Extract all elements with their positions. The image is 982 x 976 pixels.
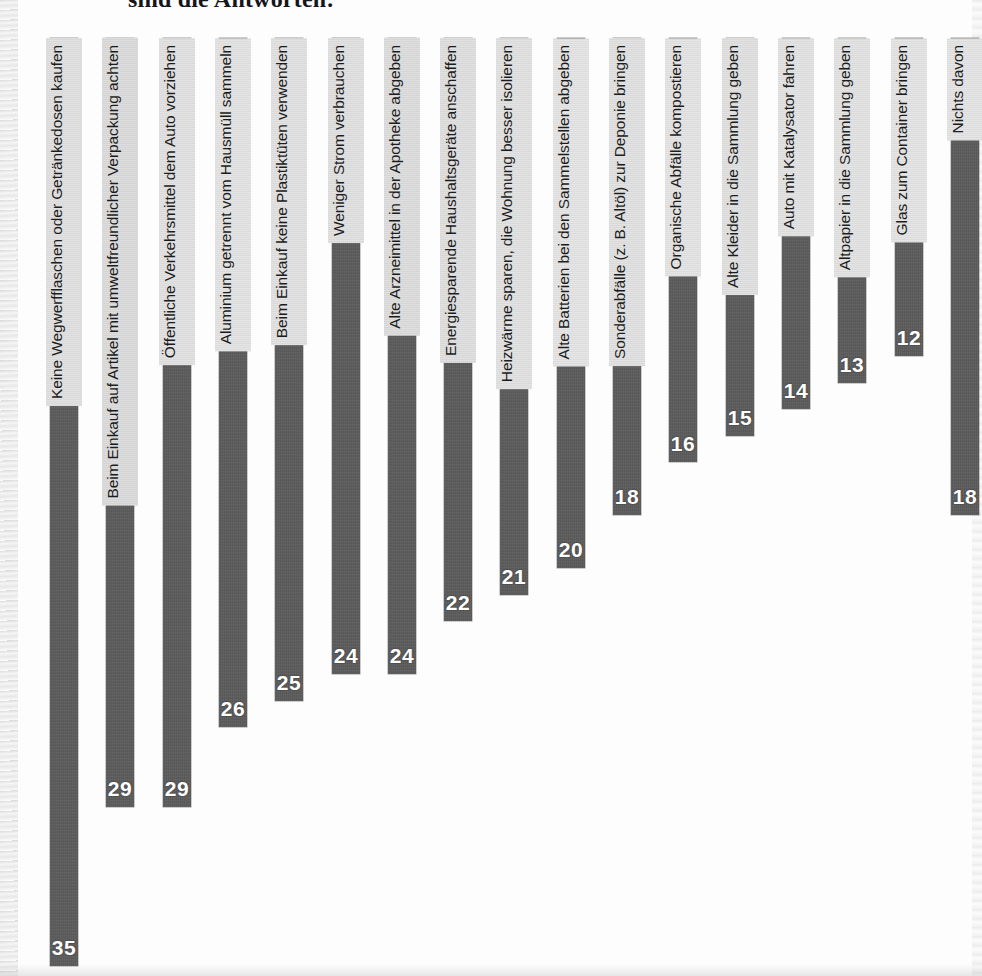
bar-group: 18Nichts davon: [951, 38, 979, 515]
bar-value-label: 16: [669, 432, 697, 456]
bar-category-label: Energiesparende Haushaltsgeräte anschaff…: [440, 38, 476, 363]
bar-value-label: 18: [613, 485, 641, 509]
bar-category-label: Beim Einkauf auf Artikel mit umweltfreun…: [102, 38, 138, 506]
bar-value-label: 35: [50, 936, 78, 960]
bar-value-label: 26: [219, 697, 247, 721]
bar-value-label: 29: [106, 777, 134, 801]
bar-category-label: Heizwärme sparen, die Wohnung besser iso…: [496, 38, 532, 389]
bar-group: 25Beim Einkauf keine Plastiktüten verwen…: [275, 38, 303, 701]
bar-category-label: Alte Kleider in die Sammlung geben: [722, 38, 758, 295]
bar-group: 24Alte Arzneimittel in der Apotheke abge…: [388, 38, 416, 674]
bar-group: 15Alte Kleider in die Sammlung geben: [726, 38, 754, 436]
bar-group: 13Altpapier in die Sammlung geben: [838, 38, 866, 383]
bar-group: 16Organische Abfälle kompostieren: [669, 38, 697, 462]
bar-category-label: Sonderabfälle (z. B. Altöl) zur Deponie …: [609, 38, 645, 366]
bar-group: 35Keine Wegwerfflaschen oder Getränkedos…: [50, 38, 78, 966]
bar-category-label: Keine Wegwerfflaschen oder Getränkedosen…: [46, 38, 82, 406]
bar-value-label: 18: [951, 485, 979, 509]
bar-group: 12Glas zum Container bringen: [895, 38, 923, 356]
bar-chart: 35Keine Wegwerfflaschen oder Getränkedos…: [0, 0, 982, 976]
bar-category-label: Weniger Strom verbrauchen: [328, 38, 364, 243]
bar-category-label: Beim Einkauf keine Plastiktüten verwende…: [271, 38, 307, 345]
bar-group: 29Öffentliche Verkehrsmittel dem Auto vo…: [163, 38, 191, 807]
bar-value-label: 15: [726, 406, 754, 430]
bar-category-label: Organische Abfälle kompostieren: [665, 38, 701, 276]
scanned-page: sind die Antworten: 35Keine Wegwerfflasc…: [0, 0, 982, 976]
bar-value-label: 22: [444, 591, 472, 615]
bar-value-label: 25: [275, 671, 303, 695]
bar-value-label: 20: [557, 538, 585, 562]
bar-category-label: Glas zum Container bringen: [891, 38, 927, 242]
bar-group: 29Beim Einkauf auf Artikel mit umweltfre…: [106, 38, 134, 807]
bar-category-label: Nichts davon: [947, 38, 982, 140]
bar-value-label: 13: [838, 353, 866, 377]
bar-group: 20Alte Batterien bei den Sammelstellen a…: [557, 38, 585, 568]
bar-group: 14Auto mit Katalysator fahren: [782, 38, 810, 409]
bar-value-label: 21: [500, 565, 528, 589]
bar-value-label: 14: [782, 379, 810, 403]
bar-category-label: Aluminium getrennt vom Hausmüll sammeln: [215, 38, 251, 351]
bar-group: 24Weniger Strom verbrauchen: [332, 38, 360, 674]
bar-value-label: 29: [163, 777, 191, 801]
bar-value-label: 24: [388, 644, 416, 668]
bar-group: 26Aluminium getrennt vom Hausmüll sammel…: [219, 38, 247, 727]
bar-group: 21Heizwärme sparen, die Wohnung besser i…: [500, 38, 528, 595]
bar-category-label: Alte Arzneimittel in der Apotheke abgebe…: [384, 38, 420, 336]
bar-value-label: 12: [895, 326, 923, 350]
bar-category-label: Öffentliche Verkehrsmittel dem Auto vorz…: [159, 38, 195, 365]
bar-category-label: Altpapier in die Sammlung geben: [834, 38, 870, 277]
bar-value-label: 24: [332, 644, 360, 668]
bar-group: 22Energiesparende Haushaltsgeräte anscha…: [444, 38, 472, 621]
bar-category-label: Auto mit Katalysator fahren: [778, 38, 814, 236]
bar-category-label: Alte Batterien bei den Sammelstellen abg…: [553, 38, 589, 366]
bar-group: 18Sonderabfälle (z. B. Altöl) zur Deponi…: [613, 38, 641, 515]
